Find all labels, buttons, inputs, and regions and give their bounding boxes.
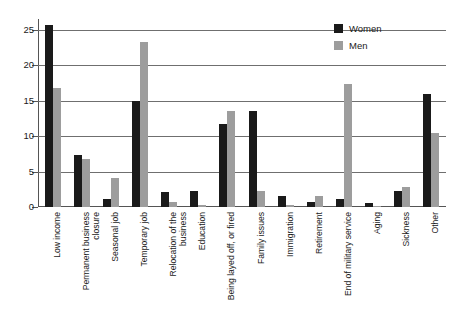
bar-groups <box>38 19 446 207</box>
x-axis-label-cell: Being layed off, or fired <box>213 210 242 334</box>
x-axis-label-line: Sickness <box>401 212 411 246</box>
bar-men <box>257 191 265 207</box>
bar-group <box>242 19 271 207</box>
legend: WomenMen <box>334 24 382 50</box>
y-axis-tick-label: 20 <box>23 60 34 70</box>
bar-women <box>161 192 169 207</box>
y-axis-tick-label: 10 <box>23 131 34 141</box>
y-axis-tick-label: 0 <box>29 202 34 212</box>
y-axis-tick-label: 25 <box>23 25 34 35</box>
legend-label: Men <box>349 41 367 51</box>
x-axis-label-line: Seasonal job <box>110 212 120 262</box>
bar-group <box>67 19 96 207</box>
x-axis-label-cell: Other <box>417 210 446 334</box>
bar-women <box>45 25 53 207</box>
x-axis-label-cell: Aging <box>359 210 388 334</box>
legend-swatch-icon <box>334 24 343 33</box>
x-axis-label: Education <box>198 212 208 250</box>
x-axis-label-cell: End of military service <box>329 210 358 334</box>
legend-item[interactable]: Men <box>334 41 382 51</box>
x-axis-labels: Low incomePermanent businessclosureSeaso… <box>38 210 446 334</box>
x-axis-label: Sickness <box>402 212 412 246</box>
x-axis-label: Low income <box>53 212 63 258</box>
bar-men <box>286 205 294 207</box>
x-axis-label: Temporary job <box>140 212 150 266</box>
bar-men <box>140 42 148 207</box>
x-axis-label-line: Education <box>197 212 207 250</box>
bar-chart: 0510152025 Low incomePermanent businessc… <box>0 0 454 336</box>
bar-men <box>198 205 206 207</box>
x-axis-label-cell: Family issues <box>242 210 271 334</box>
x-axis-label-line: Relocation of the <box>168 212 178 277</box>
bar-group <box>271 19 300 207</box>
x-axis-label-line: Aging <box>372 212 382 234</box>
x-axis-label: End of military service <box>344 212 354 296</box>
bar-women <box>74 155 82 207</box>
bar-men <box>431 133 439 207</box>
x-axis-label-cell: Sickness <box>388 210 417 334</box>
bar-group <box>388 19 417 207</box>
x-axis-label-cell: Immigration <box>271 210 300 334</box>
bar-group <box>300 19 329 207</box>
y-axis-tick-label: 15 <box>23 96 34 106</box>
bar-women <box>423 94 431 207</box>
x-axis-label-cell: Seasonal job <box>96 210 125 334</box>
bar-women <box>336 199 344 207</box>
bar-men <box>111 178 119 207</box>
bar-group <box>417 19 446 207</box>
bar-group <box>96 19 125 207</box>
bar-group <box>38 19 67 207</box>
legend-swatch-icon <box>334 41 343 50</box>
x-axis-label-cell: Low income <box>38 210 67 334</box>
x-axis-label-line: Temporary job <box>139 212 149 266</box>
bar-group <box>125 19 154 207</box>
x-axis-label-line: Being layed off, or fired <box>226 212 236 300</box>
bar-women <box>365 203 373 207</box>
x-axis-label-cell: Relocation of thebusiness <box>155 210 184 334</box>
x-axis-label-line: Low income <box>52 212 62 258</box>
bar-group <box>184 19 213 207</box>
bar-women <box>132 101 140 207</box>
y-axis-tick-label: 5 <box>29 167 34 177</box>
bar-group <box>213 19 242 207</box>
x-axis-label: Other <box>431 212 441 234</box>
x-axis-label-cell: Permanent businessclosure <box>67 210 96 334</box>
legend-item[interactable]: Women <box>334 24 382 34</box>
bar-men <box>227 111 235 207</box>
bar-women <box>219 124 227 207</box>
x-axis-label: Being layed off, or fired <box>227 212 237 300</box>
x-axis-label-cell: Education <box>184 210 213 334</box>
x-axis-label: Family issues <box>257 212 267 264</box>
x-axis-label: Retirement <box>315 212 325 254</box>
plot-area: 0510152025 <box>38 19 446 207</box>
bar-men <box>344 84 352 207</box>
x-axis-label-line: End of military service <box>343 212 353 296</box>
bar-women <box>103 199 111 208</box>
x-axis-label-cell: Temporary job <box>125 210 154 334</box>
bar-men <box>402 187 410 207</box>
bar-men <box>169 202 177 207</box>
bar-men <box>82 159 90 207</box>
x-axis-label-line: Retirement <box>314 212 324 254</box>
x-axis-label: Immigration <box>286 212 296 257</box>
x-axis-label-line: Immigration <box>285 212 295 257</box>
bar-men <box>53 88 61 207</box>
x-axis-label: Seasonal job <box>111 212 121 262</box>
bar-women <box>249 111 257 207</box>
bar-men <box>315 196 323 207</box>
x-axis-label-line: Permanent business <box>81 212 91 290</box>
x-axis-label: Aging <box>373 212 383 234</box>
x-axis-label-cell: Retirement <box>300 210 329 334</box>
x-axis-label-line: Other <box>430 212 440 234</box>
legend-label: Women <box>349 24 382 34</box>
bar-women <box>190 191 198 207</box>
bar-women <box>278 196 286 207</box>
x-axis-label-line: Family issues <box>256 212 266 264</box>
bar-men <box>373 206 381 207</box>
bar-women <box>307 202 315 207</box>
bar-group <box>155 19 184 207</box>
bar-women <box>394 191 402 207</box>
